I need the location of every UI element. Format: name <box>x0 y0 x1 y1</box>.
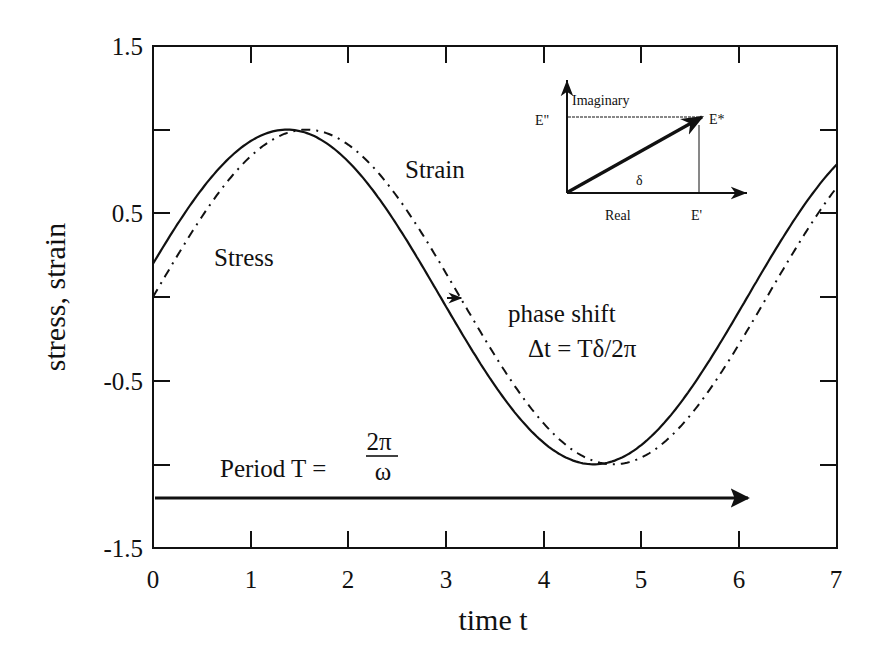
e-star-vector <box>568 117 702 192</box>
stress-label: Stress <box>214 244 274 271</box>
phasor-inset: Imaginary Real E" E' E* δ <box>535 80 747 223</box>
e-double-prime-label: E" <box>535 113 549 128</box>
period-numerator: 2π <box>366 428 392 455</box>
y-tick-label: 1.5 <box>112 33 143 60</box>
stress-strain-chart: 1.5 0.5 -0.5 -1.5 0 1 2 3 4 5 6 7 time t… <box>0 0 885 667</box>
strain-label: Strain <box>405 156 465 183</box>
strain-curve <box>153 130 837 465</box>
y-tick-label: -0.5 <box>103 368 143 395</box>
stress-curve <box>153 130 837 465</box>
e-star-label: E* <box>709 112 725 127</box>
y-axis-label: stress, strain <box>38 223 71 371</box>
period-label: Period T = <box>220 455 326 482</box>
x-tick-label: 0 <box>147 566 160 593</box>
period-denominator: ω <box>375 458 391 485</box>
x-tick-label: 5 <box>635 566 648 593</box>
x-tick-label: 6 <box>733 566 746 593</box>
y-ticks <box>153 130 837 465</box>
x-tick-label: 1 <box>245 566 258 593</box>
x-tick-label: 4 <box>538 566 551 593</box>
e-prime-label: E' <box>691 208 702 223</box>
imaginary-label: Imaginary <box>572 93 630 108</box>
x-tick-label: 3 <box>440 566 453 593</box>
y-tick-label: 0.5 <box>112 200 143 227</box>
delta-label: δ <box>636 173 643 188</box>
real-label: Real <box>605 208 631 223</box>
x-tick-label: 2 <box>342 566 355 593</box>
x-axis-label: time t <box>458 603 528 636</box>
phase-shift-formula: Δt = Tδ/2π <box>528 335 637 362</box>
phase-shift-label: phase shift <box>508 300 616 327</box>
x-tick-label: 7 <box>830 566 843 593</box>
y-tick-label: -1.5 <box>103 535 143 562</box>
